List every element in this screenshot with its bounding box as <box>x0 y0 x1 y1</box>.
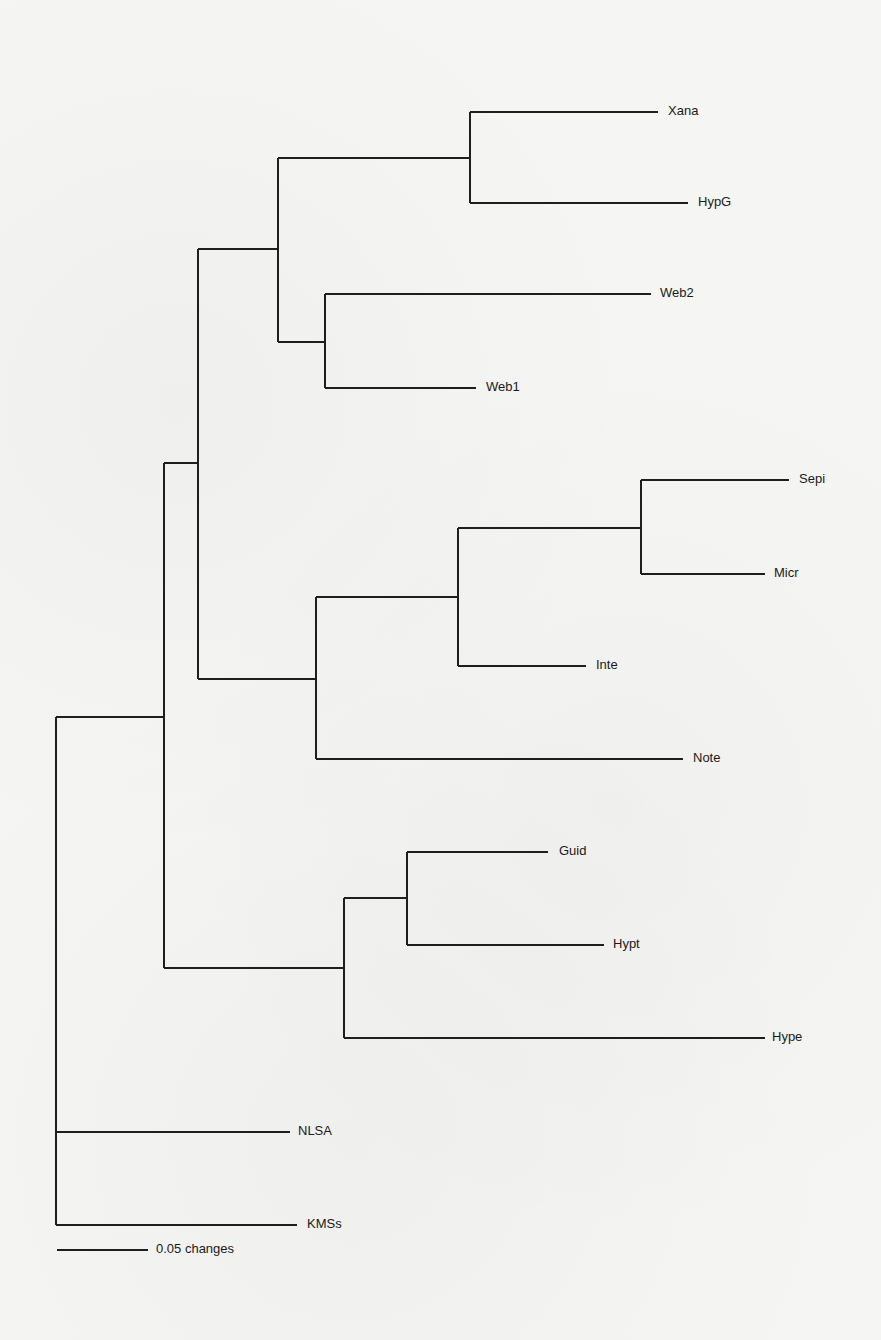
scale-bar-label: 0.05 changes <box>156 1242 234 1256</box>
tree-branches <box>56 112 789 1225</box>
leaf-label-hypt: Hypt <box>613 937 640 951</box>
leaf-label-note: Note <box>693 751 720 765</box>
leaf-label-nlsa: NLSA <box>298 1124 332 1138</box>
phylogenetic-tree <box>0 0 881 1340</box>
leaf-label-inte: Inte <box>596 658 618 672</box>
leaf-label-web2: Web2 <box>660 286 694 300</box>
leaf-label-guid: Guid <box>559 844 586 858</box>
leaf-label-sepi: Sepi <box>799 472 825 486</box>
leaf-label-web1: Web1 <box>486 380 520 394</box>
leaf-label-xana: Xana <box>668 104 698 118</box>
leaf-label-hype: Hype <box>772 1030 802 1044</box>
leaf-label-hypg: HypG <box>698 195 731 209</box>
leaf-label-kmss: KMSs <box>307 1217 342 1231</box>
leaf-label-micr: Micr <box>774 566 799 580</box>
